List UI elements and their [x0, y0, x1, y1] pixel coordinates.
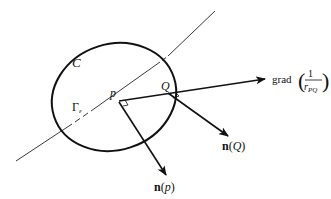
surface-trace-mid [91, 62, 160, 111]
label-curve-c: C [72, 55, 81, 70]
paren-close: ) [322, 68, 329, 93]
surface-trace-dash-1 [75, 119, 80, 123]
label-normal-p: n(p) [154, 180, 175, 194]
vector-normal-q [168, 93, 228, 136]
surface-trace-dash-2 [83, 113, 88, 117]
vector-normal-p [119, 102, 166, 175]
label-region-gamma: Γε [72, 100, 82, 115]
vector-grad [119, 79, 265, 101]
label-normal-q: n(Q) [222, 139, 245, 153]
label-point-q: Q [161, 79, 170, 93]
surface-trace-lower [16, 124, 72, 161]
svg-text:1: 1 [308, 68, 313, 79]
label-grad: grad ( 1 rPQ ) [272, 68, 329, 94]
diagram: C Γε p Q grad ( 1 rPQ ) n(Q) n(p) [0, 0, 331, 199]
label-point-p: p [109, 86, 116, 100]
surface-trace-upper [168, 11, 215, 56]
svg-text:grad: grad [272, 73, 292, 85]
svg-text:rPQ: rPQ [304, 81, 317, 94]
